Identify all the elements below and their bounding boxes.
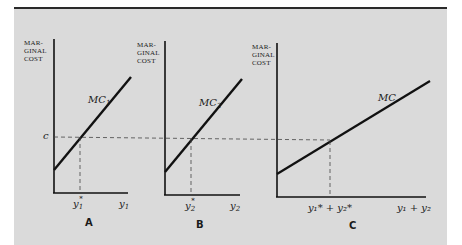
y-axis-title-line1: MAR- xyxy=(252,43,272,51)
sum-star-label: y₁* + y₂* xyxy=(307,202,352,213)
panel-a: MAR- GINAL COST MC1 c y1* y1 A xyxy=(24,39,131,228)
panel-b: MAR- GINAL COST MC2 y2* y2 B xyxy=(137,41,242,230)
y1-axis-label: y1 xyxy=(118,198,129,211)
sum-axis-label: y₁ + y₂ xyxy=(396,202,431,213)
mc1-label: MC1 xyxy=(87,94,110,107)
panel-c-letter: C xyxy=(349,220,356,231)
mc-label: MC xyxy=(377,92,396,103)
y-axis-title-line3: COST xyxy=(252,59,271,67)
panel-b-letter: B xyxy=(196,219,204,230)
y-axis-title-line3: COST xyxy=(137,57,156,65)
y-axis-title-line1: MAR- xyxy=(137,41,157,49)
y-axis-title-line2: GINAL xyxy=(252,51,275,59)
y-axis-title-line2: GINAL xyxy=(137,49,160,57)
panel-a-letter: A xyxy=(85,217,93,228)
mc2-curve xyxy=(165,79,242,172)
y-axis-title-line3: COST xyxy=(24,55,43,63)
y2-star-label: y2* xyxy=(184,197,196,213)
y1-star-label: y1* xyxy=(72,195,83,211)
mc1-curve xyxy=(54,77,131,170)
panel-c: MAR- GINAL COST MC y₁* + y₂* y₁ + y₂ C xyxy=(252,43,431,231)
mc-aggregate-curve xyxy=(277,81,430,174)
y-axis-title-line2: GINAL xyxy=(24,47,47,55)
mc2-label: MC2 xyxy=(198,97,222,110)
price-c-label: c xyxy=(43,130,49,141)
y2-axis-label: y2 xyxy=(229,200,241,213)
y-axis-title-line1: MAR- xyxy=(24,39,44,47)
